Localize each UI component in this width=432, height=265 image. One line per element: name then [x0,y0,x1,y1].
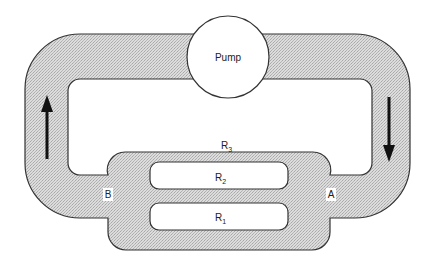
node-b: B [103,188,113,201]
node-a: A [326,188,336,201]
pump-label: Pump [215,52,242,63]
resistor-r3-label: R3 [221,140,232,153]
svg-text:R3: R3 [221,140,232,153]
hydraulic-circuit-diagram: Pump R3 R2 R1 B A [0,0,432,265]
node-b-label: B [105,189,112,200]
node-a-label: A [328,189,335,200]
pump: Pump [187,16,269,98]
